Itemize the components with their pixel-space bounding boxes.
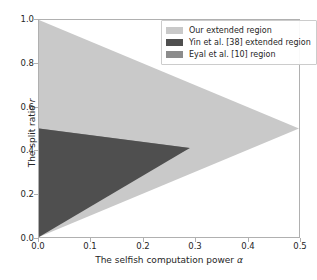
legend-swatch-our: [166, 27, 183, 34]
y-axis-label: The split ratio r: [27, 43, 37, 223]
chart-figure: 0.0 0.2 0.4 0.6 0.8 1.0 0.0 0.1 0.2 0.3 …: [0, 0, 317, 280]
axis-variable-glyph: r: [27, 99, 37, 103]
legend-swatch-yin: [166, 39, 183, 46]
xtick-label-4: 0.4: [241, 241, 255, 251]
axis-variable-glyph: α: [237, 255, 243, 265]
legend-label-yin: Yin et al. [38] extended region: [189, 38, 311, 47]
legend-item-our[interactable]: Our extended region: [166, 25, 311, 36]
x-axis-label: The selfish computation power α: [38, 255, 300, 265]
legend-label-our: Our extended region: [189, 26, 272, 35]
xtick-label-5: 0.5: [293, 241, 307, 251]
legend-item-eyal[interactable]: Eyal et al. [10] region: [166, 49, 311, 60]
xtick-label-2: 0.2: [136, 241, 150, 251]
legend-label-eyal: Eyal et al. [10] region: [189, 50, 276, 59]
legend-item-yin[interactable]: Yin et al. [38] extended region: [166, 37, 311, 48]
legend: Our extended region Yin et al. [38] exte…: [161, 20, 317, 65]
xtick-label-3: 0.3: [188, 241, 202, 251]
legend-swatch-eyal: [166, 51, 183, 58]
xtick-label-1: 0.1: [83, 241, 97, 251]
xtick-label-0: 0.0: [31, 241, 45, 251]
ytick-label-5: 1.0: [20, 14, 34, 24]
ytick-mark-5: [34, 19, 38, 20]
